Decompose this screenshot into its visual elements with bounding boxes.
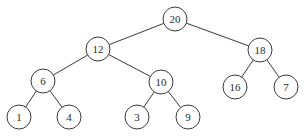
node-label: 10 [156,76,168,88]
tree-node-16: 16 [223,75,247,99]
edge-12-6 [53,55,87,75]
node-label: 1 [16,111,22,123]
node-label: 4 [66,111,72,123]
tree-svg: 2012186101671439 [0,0,305,138]
node-label: 9 [185,111,191,123]
node-label: 7 [283,81,289,93]
node-label: 18 [255,44,267,56]
edge-18-16 [242,60,254,77]
edge-10-9 [168,92,180,108]
tree-node-9: 9 [176,105,200,129]
node-label: 3 [134,111,140,123]
edge-20-12 [109,23,164,44]
node-label: 6 [40,75,46,87]
tree-node-4: 4 [57,105,81,129]
tree-node-18: 18 [248,38,272,62]
node-label: 20 [170,13,182,25]
tree-node-7: 7 [274,75,298,99]
tree-node-1: 1 [7,105,31,129]
edge-12-10 [109,55,151,77]
tree-diagram: 2012186101671439 [0,0,305,138]
edge-6-4 [50,91,62,108]
edge-6-1 [26,91,37,107]
tree-node-20: 20 [163,7,187,31]
node-label: 12 [93,43,104,55]
edge-10-3 [144,92,154,107]
tree-node-6: 6 [31,69,55,93]
nodes-group: 2012186101671439 [7,7,298,129]
edge-18-7 [267,60,279,77]
node-label: 16 [230,81,242,93]
tree-node-12: 12 [86,37,110,61]
tree-node-10: 10 [149,70,173,94]
tree-node-3: 3 [125,105,149,129]
edge-20-18 [186,23,248,46]
